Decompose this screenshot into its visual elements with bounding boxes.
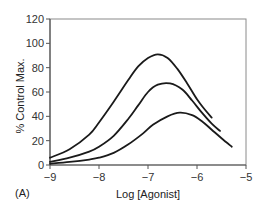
curves <box>50 54 232 164</box>
x-axis: −9−8−7−6−5 <box>44 165 253 183</box>
x-axis-title: Log [Agonist] <box>116 188 180 200</box>
x-tick-label: −9 <box>44 171 57 183</box>
panel-label: (A) <box>15 187 30 199</box>
y-tick-label: 60 <box>32 86 44 98</box>
y-axis: 020406080100120 <box>26 13 50 171</box>
y-tick-label: 40 <box>32 110 44 122</box>
chart: 020406080100120 −9−8−7−6−5 % Control Max… <box>0 0 263 218</box>
y-axis-title: % Control Max. <box>14 58 26 133</box>
x-tick-label: −8 <box>93 171 106 183</box>
x-tick-label: −5 <box>240 171 253 183</box>
y-tick-label: 80 <box>32 62 44 74</box>
y-tick-label: 0 <box>38 159 44 171</box>
x-tick-label: −7 <box>142 171 155 183</box>
y-tick-label: 120 <box>26 13 44 25</box>
y-tick-label: 100 <box>26 37 44 49</box>
y-tick-label: 20 <box>32 135 44 147</box>
x-tick-label: −6 <box>191 171 204 183</box>
